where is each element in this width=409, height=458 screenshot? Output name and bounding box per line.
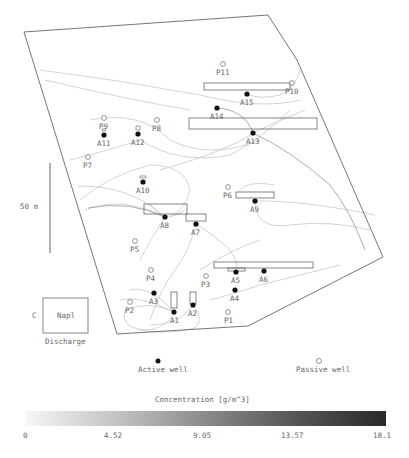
well-label: P11 [216, 68, 230, 77]
passive-well-icon [128, 300, 133, 305]
well-label: P3 [201, 280, 210, 289]
active-well-legend-icon [156, 359, 161, 364]
passive-well-icon [86, 155, 91, 160]
active-well-a14: A14 [210, 105, 224, 121]
active-well-icon [135, 131, 140, 136]
passive-well-p1: P1 [224, 310, 233, 325]
colorbar-tick-2: 9.05 [193, 431, 211, 440]
active-well-icon [171, 309, 176, 314]
active-well-a2: A2 [188, 302, 197, 318]
well-label: A2 [188, 309, 197, 318]
colorbar-tick-4: 18.1 [373, 431, 391, 440]
contour-lines [40, 70, 375, 332]
well-screen-rect [144, 204, 187, 214]
passive-well-legend-label: Passive well [296, 365, 350, 374]
well-label: A14 [210, 112, 224, 121]
active-well-a8: A8 [160, 214, 170, 230]
well-screen-rect [190, 292, 196, 304]
active-well-a15: A15 [240, 91, 254, 107]
active-well-icon [232, 287, 237, 292]
active-well-icon [233, 269, 238, 274]
active-well-a10: A10 [136, 179, 150, 195]
well-label: A6 [259, 275, 269, 284]
passive-well-icon [204, 274, 209, 279]
active-well-icon [261, 268, 266, 273]
well-label: P8 [152, 124, 162, 133]
passive-well-p6: P6 [223, 185, 233, 200]
active-well-a13: A13 [246, 130, 260, 146]
passive-well-p9: P9 [99, 116, 108, 131]
well-label: A10 [136, 186, 150, 195]
well-label: A9 [250, 205, 259, 214]
well-label: A8 [160, 221, 170, 230]
site-map: A1A2A3A4A5A6A7A8A9A10A11A12A13A14A15 P1P… [0, 0, 409, 458]
well-label: A11 [97, 139, 111, 148]
well-label: A1 [170, 316, 179, 325]
active-well-icon [250, 130, 255, 135]
active-well-icon [101, 132, 106, 137]
active-well-a1: A1 [170, 309, 179, 325]
colorbar-tick-1: 4.52 [104, 431, 122, 440]
colorbar-title: Concentration [g/m^3] [155, 395, 250, 404]
active-well-a4: A4 [230, 287, 240, 303]
colorbar [25, 411, 386, 426]
well-label: P5 [130, 245, 139, 254]
passive-well-p7: P7 [83, 155, 92, 170]
passive-well-icon [102, 116, 107, 121]
well-screen-rect [189, 118, 317, 129]
napl-label: Napl [57, 311, 75, 320]
well-screen-rect [236, 192, 274, 198]
passive-well-icon [226, 310, 231, 315]
active-well-legend-label: Active well [138, 365, 188, 374]
passive-well-icon [133, 239, 138, 244]
active-well-a7: A7 [191, 221, 200, 237]
small-marker [140, 176, 146, 178]
passive-well-p5: P5 [130, 239, 139, 254]
passive-well-p4: P4 [146, 268, 156, 283]
discharge-label: Discharge [45, 337, 86, 346]
active-well-a11: A11 [97, 132, 111, 148]
active-well-icon [193, 221, 198, 226]
well-label: P2 [125, 306, 134, 315]
active-well-icon [252, 198, 257, 203]
scale-bar-label: 50 m [20, 202, 39, 211]
well-label: A15 [240, 98, 254, 107]
active-well-icon [244, 91, 249, 96]
well-screen-rect [186, 214, 206, 221]
well-label: P9 [99, 122, 108, 131]
well-label: P10 [285, 87, 299, 96]
passive-well-icon [155, 118, 160, 123]
small-marker [136, 126, 140, 130]
active-well-icon [214, 105, 219, 110]
passive-well-p2: P2 [125, 300, 134, 315]
passive-well-icon [290, 81, 295, 86]
well-label: A4 [230, 294, 240, 303]
passive-well-icon [221, 62, 226, 67]
passive-well-icon [226, 185, 231, 190]
passive-well-legend-icon [317, 359, 322, 364]
passive-well-p8: P8 [152, 118, 162, 133]
colorbar-tick-0: 0 [23, 431, 28, 440]
napl-side-label: C [32, 311, 37, 320]
well-label: A12 [131, 138, 145, 147]
well-label: P7 [83, 161, 92, 170]
active-well-icon [140, 179, 145, 184]
active-well-icon [190, 302, 195, 307]
well-label: A7 [191, 228, 200, 237]
active-well-a5: A5 [231, 269, 240, 285]
well-label: A5 [231, 276, 240, 285]
well-label: A3 [149, 297, 158, 306]
well-screen-rect [171, 292, 177, 308]
active-well-a6: A6 [259, 268, 269, 284]
active-well-icon [162, 214, 167, 219]
passive-well-icon [149, 268, 154, 273]
colorbar-tick-3: 13.57 [281, 431, 304, 440]
active-well-icon [151, 290, 156, 295]
active-well-a12: A12 [131, 131, 145, 147]
well-label: A13 [246, 137, 260, 146]
passive-well-p3: P3 [201, 274, 210, 289]
well-label: P4 [146, 274, 156, 283]
well-screen-rect [214, 262, 313, 268]
well-label: P6 [223, 191, 233, 200]
well-label: P1 [224, 316, 233, 325]
